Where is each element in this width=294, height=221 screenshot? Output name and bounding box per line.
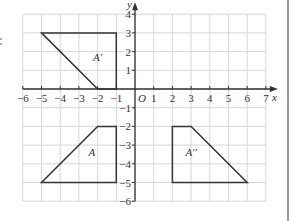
y-tick-label: 3 — [126, 27, 132, 39]
shape-label: A'' — [184, 146, 197, 158]
x-tick-label: −4 — [54, 92, 66, 104]
x-tick-label: −5 — [36, 92, 48, 104]
y-tick-label: 1 — [126, 64, 132, 76]
margin-mark — [0, 43, 2, 45]
y-tick-label: 2 — [126, 46, 132, 58]
x-tick-label: 6 — [244, 92, 250, 104]
x-axis-label: x — [271, 91, 277, 103]
x-tick-label: 4 — [207, 92, 213, 104]
y-tick-label: −3 — [119, 139, 131, 151]
x-tick-label: 5 — [226, 92, 232, 104]
shape-label: A — [88, 146, 96, 158]
grid-plot: −6−5−4−3−2−112345674321−1−2−3−4−5−6xyOAA… — [0, 0, 294, 221]
coordinate-grid-diagram: −6−5−4−3−2−112345674321−1−2−3−4−5−6xyOAA… — [0, 0, 294, 221]
x-tick-label: 2 — [170, 92, 176, 104]
x-tick-label: −2 — [92, 92, 104, 104]
y-axis-arrow-icon — [132, 2, 138, 10]
x-tick-label: 1 — [151, 92, 157, 104]
y-axis-label: y — [126, 0, 132, 10]
x-tick-label: 3 — [188, 92, 194, 104]
origin-label: O — [138, 92, 146, 104]
y-tick-label: −2 — [119, 120, 131, 132]
page-edge-divider — [287, 0, 289, 221]
y-tick-label: −4 — [119, 158, 131, 170]
x-tick-label: 7 — [263, 92, 269, 104]
x-tick-label: −3 — [73, 92, 85, 104]
y-tick-label: −6 — [119, 195, 131, 207]
y-tick-label: −5 — [119, 177, 131, 189]
y-tick-label: −1 — [119, 102, 131, 114]
margin-mark — [0, 38, 2, 40]
shape-label: A' — [92, 51, 103, 63]
x-tick-label: −6 — [17, 92, 29, 104]
